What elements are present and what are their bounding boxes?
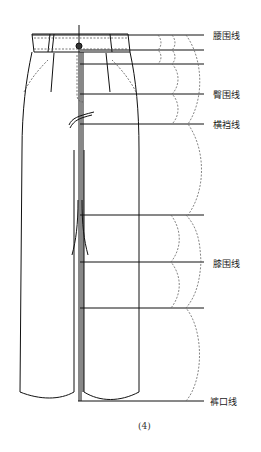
label-hip: 臀围线 xyxy=(213,88,240,101)
trouser-diagram xyxy=(0,0,261,452)
label-waist: 腰围线 xyxy=(213,29,240,42)
right-leg-outline xyxy=(84,52,139,400)
left-leg-outline xyxy=(20,52,74,398)
arc-2 xyxy=(172,35,178,124)
figure-caption: (4) xyxy=(138,421,151,431)
label-crotch: 横裆线 xyxy=(213,118,240,131)
label-hem: 裤口线 xyxy=(210,395,237,408)
arc-3 xyxy=(186,35,202,215)
button-icon xyxy=(76,43,82,49)
label-knee: 膝围线 xyxy=(213,257,240,270)
